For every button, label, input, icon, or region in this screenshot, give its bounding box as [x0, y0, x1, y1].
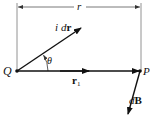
field-vector-db [128, 71, 140, 114]
source-point-label: Q [3, 64, 12, 78]
field-point-label: P [142, 65, 150, 77]
field-vector-label: dB [129, 94, 143, 106]
source-point-q [15, 69, 19, 73]
angle-label: θ [47, 55, 52, 66]
unit-vector-label: r1 [72, 74, 81, 88]
distance-label: r [77, 0, 82, 12]
biot-savart-diagram: r idr θ r1 Q P dB [0, 0, 155, 118]
current-element-label: idr [55, 21, 72, 33]
